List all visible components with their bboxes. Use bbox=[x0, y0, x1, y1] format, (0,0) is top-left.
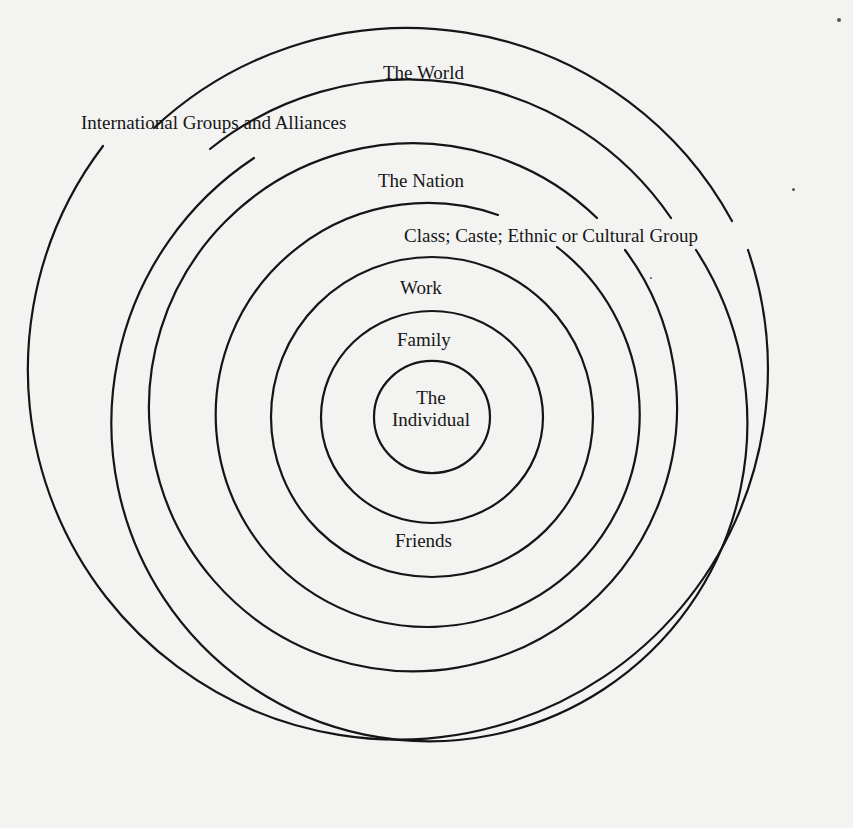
label-international-groups: International Groups and Alliances bbox=[81, 112, 346, 134]
ring-international-top bbox=[210, 79, 671, 218]
label-individual-line1: The bbox=[371, 387, 491, 409]
print-speck bbox=[837, 18, 841, 22]
label-the-nation: The Nation bbox=[378, 170, 464, 192]
print-speck bbox=[650, 277, 652, 279]
label-the-world: The World bbox=[383, 62, 464, 84]
label-friends: Friends bbox=[395, 530, 452, 552]
label-family: Family bbox=[397, 329, 451, 351]
label-the-individual: The Individual bbox=[371, 387, 491, 431]
label-individual-line2: Individual bbox=[371, 409, 491, 431]
print-speck bbox=[792, 188, 795, 191]
diagram-page: The World International Groups and Allia… bbox=[0, 0, 853, 828]
label-class-caste-ethnic: Class; Caste; Ethnic or Cultural Group bbox=[404, 225, 698, 247]
label-work: Work bbox=[400, 277, 442, 299]
